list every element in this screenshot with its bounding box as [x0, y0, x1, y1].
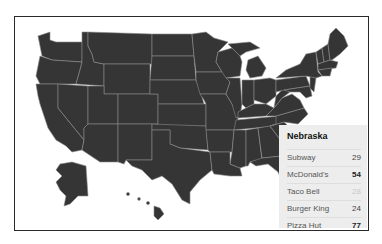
tooltip-state-name: Nebraska: [287, 131, 361, 141]
state-indiana[interactable]: [242, 80, 254, 108]
row-value: 24: [352, 201, 361, 217]
state-alaska[interactable]: [56, 162, 88, 206]
state-new-york[interactable]: [276, 52, 322, 78]
tooltip-row: Burger King 24: [287, 200, 361, 217]
row-value: 28: [352, 184, 361, 200]
row-label: Taco Bell: [287, 184, 319, 200]
row-label: Burger King: [287, 201, 329, 217]
state-colorado[interactable]: [118, 94, 158, 124]
state-arizona[interactable]: [82, 124, 118, 162]
row-value: 29: [352, 150, 361, 166]
state-hawaii[interactable]: [126, 192, 164, 220]
state-kansas[interactable]: [158, 104, 206, 126]
state-wyoming[interactable]: [104, 64, 150, 94]
state-new-mexico[interactable]: [118, 124, 152, 164]
state-north-dakota[interactable]: [152, 34, 194, 56]
tooltip-row: Pizza Hut 77: [287, 217, 361, 234]
row-value: 54: [352, 167, 361, 183]
state-south-dakota[interactable]: [150, 56, 196, 80]
row-label: Pizza Hut: [287, 218, 321, 234]
state-maine[interactable]: [328, 28, 348, 60]
tooltip-row: Subway 29: [287, 149, 361, 166]
row-label: McDonald's: [287, 167, 329, 183]
state-montana[interactable]: [88, 32, 152, 64]
state-tooltip: Nebraska Subway 29 McDonald's 54 Taco Be…: [279, 125, 367, 228]
tooltip-row: Taco Bell 28: [287, 183, 361, 200]
state-arkansas[interactable]: [206, 130, 234, 152]
row-value: 77: [352, 218, 361, 234]
state-nebraska[interactable]: [150, 80, 204, 104]
row-label: Subway: [287, 150, 315, 166]
state-ohio[interactable]: [254, 78, 276, 104]
tooltip-row: McDonald's 54: [287, 166, 361, 183]
